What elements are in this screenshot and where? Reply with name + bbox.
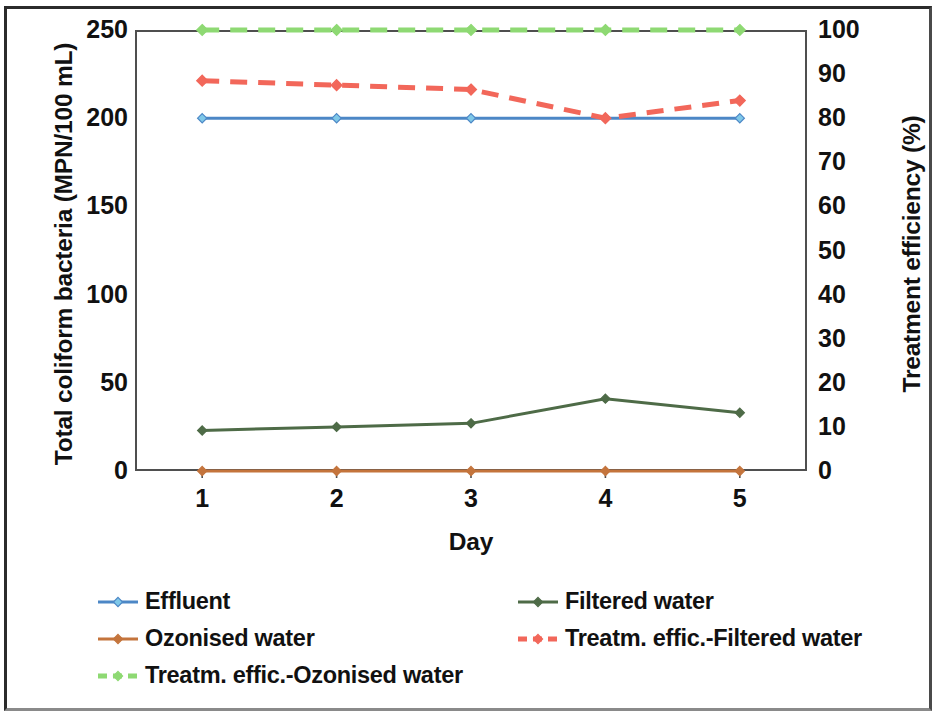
x-axis-title: Day	[135, 528, 807, 556]
y-axis-left-tick-label: 150	[50, 193, 128, 218]
x-axis-tick-label: 5	[710, 486, 770, 511]
legend-key-icon	[96, 593, 140, 611]
y-axis-right-tick-label: 10	[818, 414, 896, 439]
legend-item[interactable]: Ozonised water	[96, 625, 516, 652]
y-axis-left-tick-label: 250	[50, 17, 128, 42]
legend-item[interactable]: Treatm. effic.-Ozonised water	[96, 662, 516, 689]
chart-legend: EffluentFiltered waterOzonised waterTrea…	[96, 588, 896, 699]
data-point-marker	[600, 25, 611, 36]
data-point-marker	[197, 75, 208, 86]
series-filtered-water	[198, 394, 745, 435]
legend-item[interactable]: Effluent	[96, 588, 516, 615]
data-point-marker	[198, 426, 207, 435]
y-axis-right-tick-label: 40	[818, 282, 896, 307]
legend-label: Treatm. effic.-Filtered water	[565, 625, 862, 652]
x-axis-tick-label: 3	[441, 486, 501, 511]
data-point-marker	[466, 419, 475, 428]
legend-label: Ozonised water	[145, 625, 314, 652]
data-point-marker	[734, 25, 745, 36]
data-point-marker	[331, 25, 342, 36]
data-point-marker	[332, 466, 341, 475]
data-point-marker	[466, 25, 477, 36]
y-axis-right-tick-label: 50	[818, 238, 896, 263]
data-point-marker	[198, 466, 207, 475]
y-axis-right-tick-label: 60	[818, 193, 896, 218]
y-axis-right-tick-label: 80	[818, 105, 896, 130]
x-axis-tick-label: 4	[575, 486, 635, 511]
data-point-marker	[600, 113, 611, 124]
y-axis-right-tick-label: 30	[818, 326, 896, 351]
chart-figure: Total coliform bacteria (MPN/100 mL) Tre…	[0, 0, 936, 717]
data-point-marker	[735, 114, 744, 123]
data-point-marker	[198, 114, 207, 123]
y-axis-right-tick-label: 20	[818, 370, 896, 395]
data-point-marker	[735, 466, 744, 475]
series-ozonised-water	[198, 466, 745, 475]
series-treatm-effic-ozonised-water	[197, 25, 746, 36]
data-point-marker	[197, 25, 208, 36]
legend-row: Ozonised waterTreatm. effic.-Filtered wa…	[96, 625, 896, 652]
data-point-marker	[466, 466, 475, 475]
data-point-marker	[735, 408, 744, 417]
y-axis-right-tick-label: 0	[818, 458, 896, 483]
y-axis-left-tick-label: 100	[50, 282, 128, 307]
data-point-marker	[332, 422, 341, 431]
legend-label: Effluent	[145, 588, 230, 615]
data-point-marker	[601, 466, 610, 475]
data-point-marker	[331, 80, 342, 91]
legend-row: EffluentFiltered water	[96, 588, 896, 615]
data-point-marker	[332, 114, 341, 123]
legend-label: Filtered water	[565, 588, 714, 615]
legend-item[interactable]: Treatm. effic.-Filtered water	[516, 625, 862, 652]
y-axis-left-tick-label: 50	[50, 370, 128, 395]
legend-key-icon	[96, 667, 140, 685]
legend-item[interactable]: Filtered water	[516, 588, 714, 615]
y-axis-right-tick-label: 100	[818, 17, 896, 42]
y-axis-right-title: Treatment efficiency (%)	[898, 14, 926, 494]
y-axis-right-tick-label: 90	[818, 61, 896, 86]
legend-row: Treatm. effic.-Ozonised water	[96, 662, 896, 689]
x-axis-tick-label: 2	[307, 486, 367, 511]
legend-key-icon	[96, 630, 140, 648]
data-point-marker	[466, 114, 475, 123]
legend-label: Treatm. effic.-Ozonised water	[145, 662, 463, 689]
y-axis-left-tick-label: 200	[50, 105, 128, 130]
legend-key-icon	[516, 630, 560, 648]
data-point-marker	[466, 84, 477, 95]
data-point-marker	[601, 394, 610, 403]
x-axis-tick-label: 1	[172, 486, 232, 511]
data-point-marker	[734, 95, 745, 106]
plot-series-layer	[135, 30, 807, 471]
y-axis-left-tick-label: 0	[50, 458, 128, 483]
series-effluent	[198, 114, 745, 123]
y-axis-right-tick-label: 70	[818, 149, 896, 174]
legend-key-icon	[516, 593, 560, 611]
